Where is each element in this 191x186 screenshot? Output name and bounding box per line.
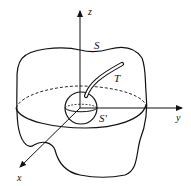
- x-axis-label: x: [16, 172, 22, 183]
- diagram-canvas: z y x S T S': [0, 0, 191, 186]
- y-axis-label: y: [175, 112, 181, 123]
- x-axis: [20, 108, 80, 167]
- sphere-s-prime-label: S': [99, 112, 108, 124]
- z-axis-label: z: [87, 6, 92, 17]
- tube-t-label: T: [114, 72, 121, 84]
- surface-s-label: S: [94, 39, 100, 51]
